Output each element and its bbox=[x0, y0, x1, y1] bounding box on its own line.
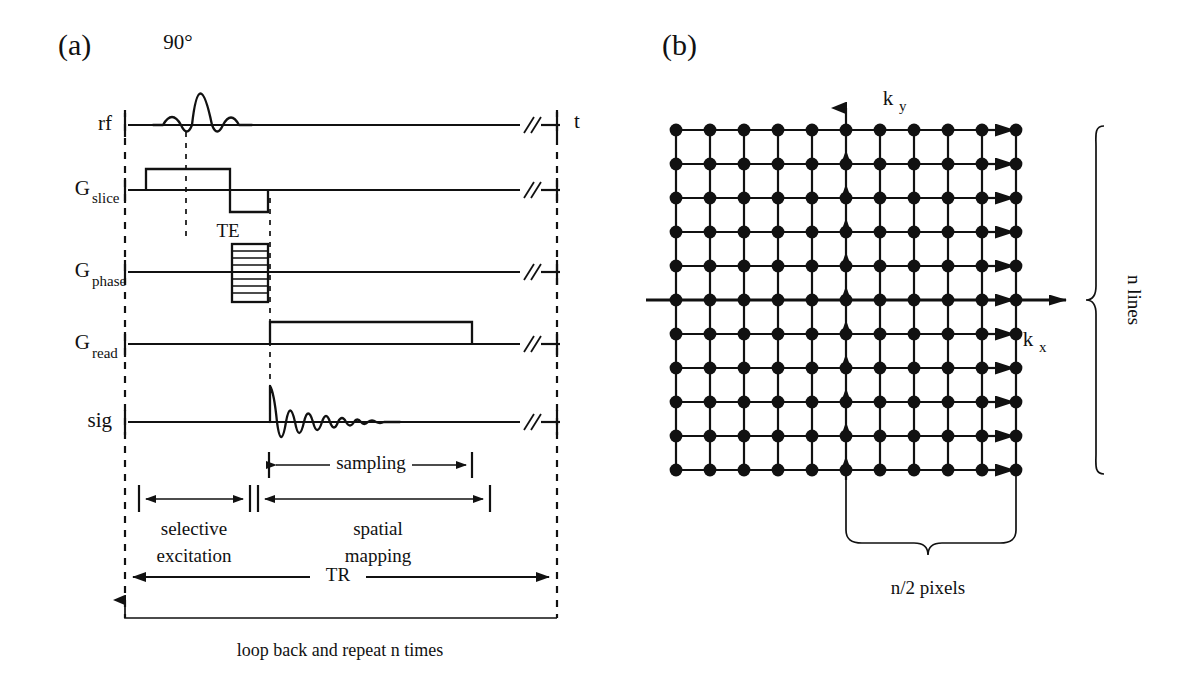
panel-b: (b) bbox=[646, 28, 1145, 598]
sample-dot bbox=[806, 362, 819, 375]
sample-dot bbox=[670, 226, 683, 239]
figure-svg: (a) rf 90° t G slice bbox=[0, 0, 1200, 684]
sample-dot bbox=[704, 464, 717, 477]
sample-dot bbox=[1010, 396, 1023, 409]
sample-dot bbox=[908, 226, 921, 239]
sample-dot bbox=[806, 396, 819, 409]
sample-dot bbox=[908, 362, 921, 375]
ky-axis-label: k bbox=[883, 86, 894, 110]
channel-label-rf: rf bbox=[98, 111, 112, 135]
n-lines-label: n lines bbox=[1124, 275, 1145, 325]
sample-dot bbox=[840, 226, 853, 239]
sample-dot bbox=[976, 430, 989, 443]
channel-label-gread: G bbox=[75, 330, 90, 354]
channel-label-gslice: G bbox=[75, 176, 90, 200]
sample-dot bbox=[704, 396, 717, 409]
flip-angle-label: 90° bbox=[163, 30, 192, 54]
sample-dot bbox=[670, 430, 683, 443]
sampling-label: sampling bbox=[336, 452, 406, 473]
sample-dot bbox=[670, 464, 683, 477]
selective-excitation-line2: excitation bbox=[157, 545, 232, 566]
sample-dot bbox=[806, 464, 819, 477]
sample-dot bbox=[874, 430, 887, 443]
n2-pixels-brace-group: n/2 pixels bbox=[846, 472, 1016, 598]
sample-dot bbox=[738, 158, 751, 171]
gslice-rephase-lobe bbox=[230, 190, 268, 212]
sample-dot bbox=[908, 430, 921, 443]
sample-dot bbox=[874, 362, 887, 375]
kx-axis-label: k bbox=[1023, 327, 1034, 351]
ky-axis: k y bbox=[841, 86, 907, 480]
sample-dot bbox=[908, 328, 921, 341]
sample-dot bbox=[942, 362, 955, 375]
sample-dot bbox=[942, 430, 955, 443]
sample-dot bbox=[670, 294, 683, 307]
ky-axis-subscript: y bbox=[899, 98, 907, 114]
sample-dot bbox=[670, 362, 683, 375]
tr-label: TR bbox=[326, 564, 351, 585]
sampling-interval: sampling bbox=[269, 452, 472, 478]
sample-dot bbox=[806, 226, 819, 239]
sample-dot bbox=[704, 124, 717, 137]
sample-dot bbox=[908, 260, 921, 273]
sample-dot bbox=[1010, 260, 1023, 273]
sample-dot bbox=[738, 260, 751, 273]
sample-dot bbox=[840, 124, 853, 137]
tr-interval: TR bbox=[133, 564, 549, 585]
sample-dot bbox=[806, 124, 819, 137]
sample-dot bbox=[874, 294, 887, 307]
loop-back-path: loop back and repeat n times bbox=[125, 600, 557, 660]
loop-back-label: loop back and repeat n times bbox=[237, 640, 443, 660]
n-lines-brace bbox=[1086, 126, 1104, 474]
sig-fid-waveform bbox=[270, 386, 400, 437]
n2-pixels-brace bbox=[846, 472, 1016, 555]
sample-dot bbox=[704, 294, 717, 307]
te-annotation: TE bbox=[186, 132, 270, 388]
sample-dot bbox=[976, 226, 989, 239]
sample-dot bbox=[840, 328, 853, 341]
time-axis-label: t bbox=[574, 109, 580, 133]
spatial-mapping-line2: mapping bbox=[345, 545, 412, 566]
kx-axis-subscript: x bbox=[1039, 339, 1047, 355]
sample-dot bbox=[1010, 294, 1023, 307]
panel-a-label: (a) bbox=[58, 28, 91, 62]
sample-dot bbox=[806, 260, 819, 273]
channel-gslice: G slice bbox=[75, 169, 560, 212]
sample-dot bbox=[942, 260, 955, 273]
sample-dot bbox=[942, 124, 955, 137]
sample-dot bbox=[704, 260, 717, 273]
sample-dot bbox=[704, 328, 717, 341]
sample-dot bbox=[976, 396, 989, 409]
sample-dot bbox=[670, 192, 683, 205]
sample-dot bbox=[1010, 158, 1023, 171]
sample-dot bbox=[1010, 362, 1023, 375]
sample-dot bbox=[772, 430, 785, 443]
sample-dot bbox=[806, 294, 819, 307]
loop-back-arrow bbox=[125, 600, 557, 618]
sample-dot bbox=[976, 294, 989, 307]
sample-dot bbox=[840, 260, 853, 273]
channel-sub-gread: read bbox=[92, 345, 118, 361]
sample-dot bbox=[1010, 430, 1023, 443]
sample-dot bbox=[908, 192, 921, 205]
sample-dot bbox=[1010, 124, 1023, 137]
sample-dot bbox=[772, 260, 785, 273]
sample-dot bbox=[704, 158, 717, 171]
sample-dot bbox=[670, 396, 683, 409]
sample-dot bbox=[670, 328, 683, 341]
sample-dot bbox=[1010, 192, 1023, 205]
sample-dot bbox=[908, 294, 921, 307]
sample-dot bbox=[874, 192, 887, 205]
sample-dot bbox=[874, 328, 887, 341]
selective-excitation-interval: selective excitation bbox=[139, 485, 250, 566]
sample-dot bbox=[874, 464, 887, 477]
sample-dot bbox=[806, 158, 819, 171]
sample-dot bbox=[738, 430, 751, 443]
sample-dot bbox=[942, 226, 955, 239]
sample-dot bbox=[772, 362, 785, 375]
sample-dot bbox=[942, 464, 955, 477]
channel-sub-gslice: slice bbox=[92, 190, 120, 206]
sample-dot bbox=[976, 260, 989, 273]
sample-dot bbox=[942, 158, 955, 171]
sample-dot bbox=[942, 328, 955, 341]
